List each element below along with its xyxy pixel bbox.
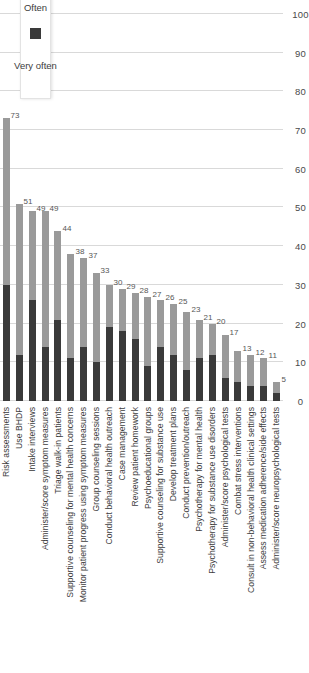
bar-value-label: 25 xyxy=(178,297,187,306)
bar-segment-very-often xyxy=(3,285,10,401)
chart-plot-wrapper: Risk assessmentsUse BHDPIntake interview… xyxy=(0,0,309,673)
bar-row xyxy=(196,320,203,401)
bar-segment-very-often xyxy=(209,355,216,401)
bar-value-label: 30 xyxy=(114,277,123,286)
value-axis-ticks: 0102030405060708090100 xyxy=(283,0,309,401)
bar-value-label: 38 xyxy=(75,246,84,255)
bar-row xyxy=(222,335,229,401)
bar-segment-often xyxy=(42,211,49,346)
bar-row xyxy=(234,351,241,401)
bar-value-label: 49 xyxy=(50,204,59,213)
bar-segment-often xyxy=(209,324,216,355)
bar-segment-often xyxy=(93,273,100,362)
bar-segment-often xyxy=(119,289,126,332)
bar-segment-very-often xyxy=(80,347,87,401)
legend-label: Often xyxy=(24,2,47,13)
bar-segment-very-often xyxy=(93,362,100,401)
bar-segment-very-often xyxy=(42,347,49,401)
axis-tick-label: 100 xyxy=(292,9,308,20)
category-label: Supportive counseling for mental health … xyxy=(66,407,75,598)
category-label: Risk assessments xyxy=(2,407,11,477)
bar-value-label: 11 xyxy=(268,351,277,360)
bar-segment-often xyxy=(132,293,139,339)
bar-segment-often xyxy=(170,304,177,354)
category-axis-labels: Risk assessmentsUse BHDPIntake interview… xyxy=(0,401,309,673)
category-label: Psychoeducational groups xyxy=(144,407,153,509)
bar-row xyxy=(54,231,61,401)
bar-row xyxy=(106,285,113,401)
bar-value-label: 12 xyxy=(255,347,264,356)
category-label: Review patient homework xyxy=(131,407,140,507)
axis-tick-label: 50 xyxy=(295,202,306,213)
bar-segment-very-often xyxy=(222,378,229,401)
bar-row xyxy=(67,254,74,401)
bar-value-label: 23 xyxy=(191,305,200,314)
bar-row xyxy=(80,258,87,401)
legend-item[interactable]: Very often xyxy=(30,28,41,87)
bar-segment-often xyxy=(3,119,10,285)
category-label: Psychotherapy for substance use disorder… xyxy=(208,407,217,574)
category-label: Use BHDP xyxy=(15,407,24,449)
bar-value-label: 13 xyxy=(242,343,251,352)
category-label: Administer/score psychological tests xyxy=(221,407,230,547)
bar-segment-often xyxy=(183,312,190,370)
bar-segment-often xyxy=(80,258,87,347)
category-label: Psychotherapy for mental health xyxy=(195,407,204,532)
category-label: Administer/score neuropsychological test… xyxy=(272,407,281,570)
bar-row xyxy=(183,312,190,401)
rotated-chart-stage: Risk assessmentsUse BHDPIntake interview… xyxy=(0,0,309,673)
bar-segment-very-often xyxy=(196,358,203,401)
bar-segment-very-often xyxy=(67,358,74,401)
bar-value-label: 33 xyxy=(101,266,110,275)
bar-value-label: 28 xyxy=(140,285,149,294)
bar-segment-often xyxy=(260,358,267,385)
category-label: Assess medication adherence/side effects xyxy=(259,407,268,569)
bar-segment-very-often xyxy=(144,366,151,401)
axis-tick-label: 10 xyxy=(295,357,306,368)
bar-row xyxy=(132,293,139,401)
bar-segment-very-often xyxy=(16,355,23,401)
bar-value-label: 37 xyxy=(88,250,97,259)
axis-tick-label: 70 xyxy=(295,125,306,136)
bar-segment-very-often xyxy=(106,327,113,401)
axis-tick-label: 30 xyxy=(295,279,306,290)
bar-row xyxy=(260,358,267,401)
bar-row xyxy=(144,297,151,401)
bar-segment-very-often xyxy=(157,347,164,401)
bar-segment-very-often xyxy=(170,355,177,401)
axis-tick-label: 0 xyxy=(298,396,303,407)
bar-value-label: 29 xyxy=(127,281,136,290)
bar-segment-very-often xyxy=(119,331,126,401)
bar-row xyxy=(273,382,280,401)
bar-row xyxy=(209,324,216,401)
bar-row xyxy=(157,300,164,401)
axis-tick-label: 40 xyxy=(295,241,306,252)
bar-segment-often xyxy=(157,300,164,346)
bar-value-label: 17 xyxy=(230,328,239,337)
category-label: Case management xyxy=(118,407,127,480)
bar-row xyxy=(3,119,10,402)
bar-value-label: 26 xyxy=(165,293,174,302)
legend-label: Very often xyxy=(14,60,57,71)
category-label: Monitor patient progress using symptom m… xyxy=(79,407,88,602)
category-label: Combat stress interventions xyxy=(234,407,243,515)
bar-segment-very-often xyxy=(183,370,190,401)
bar-row xyxy=(93,273,100,401)
category-label: Conduct prevention/outreach xyxy=(182,407,191,519)
bar-segment-often xyxy=(54,231,61,320)
axis-tick-label: 60 xyxy=(295,163,306,174)
bar-value-label: 21 xyxy=(204,312,213,321)
bar-row xyxy=(247,355,254,401)
category-label: Conduct behavioral health outreach xyxy=(105,407,114,544)
bar-segment-often xyxy=(273,382,280,394)
bar-value-label: 51 xyxy=(24,196,33,205)
bar-segment-often xyxy=(247,355,254,386)
bar-row xyxy=(42,211,49,401)
legend-item[interactable]: Often xyxy=(30,0,41,19)
chart-legend: Very oftenOften xyxy=(20,0,51,99)
bar-segment-very-often xyxy=(234,382,241,401)
axis-tick-label: 90 xyxy=(295,47,306,58)
category-label: Consult in non-behavioral health clinica… xyxy=(247,407,256,593)
bar-segment-often xyxy=(106,285,113,328)
category-label: Administer/score symptom measures xyxy=(41,407,50,550)
